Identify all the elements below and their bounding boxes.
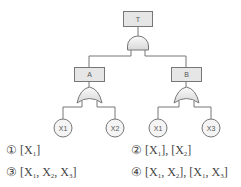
- basic-event-x1-a: X1: [54, 119, 72, 137]
- svg-text:X3: X3: [207, 125, 216, 132]
- option-4[interactable]: ④[X1, X2], [X1, X3]: [131, 165, 228, 183]
- basic-event-x1-b: X1: [149, 119, 167, 137]
- svg-text:X2: X2: [111, 125, 120, 132]
- svg-text:A: A: [87, 71, 92, 78]
- svg-text:B: B: [184, 71, 189, 78]
- svg-text:X1: X1: [59, 125, 68, 132]
- event-b: B: [172, 68, 202, 82]
- and-gate-icon: [128, 36, 149, 50]
- svg-text:X1: X1: [154, 125, 163, 132]
- fault-tree-diagram: T A B X1 X2 X1 X3: [0, 0, 241, 140]
- top-event-t: T: [124, 12, 153, 27]
- basic-event-x2: X2: [106, 119, 124, 137]
- svg-text:T: T: [136, 16, 141, 23]
- option-2[interactable]: ②[X1], [X2]: [131, 143, 191, 161]
- basic-event-x3: X3: [202, 119, 220, 137]
- option-1[interactable]: ①[X1]: [6, 143, 40, 161]
- or-gate-a-icon: [77, 87, 102, 103]
- event-a: A: [75, 68, 105, 82]
- or-gate-b-icon: [174, 87, 199, 103]
- option-3[interactable]: ③[X1, X2, X3]: [6, 165, 77, 183]
